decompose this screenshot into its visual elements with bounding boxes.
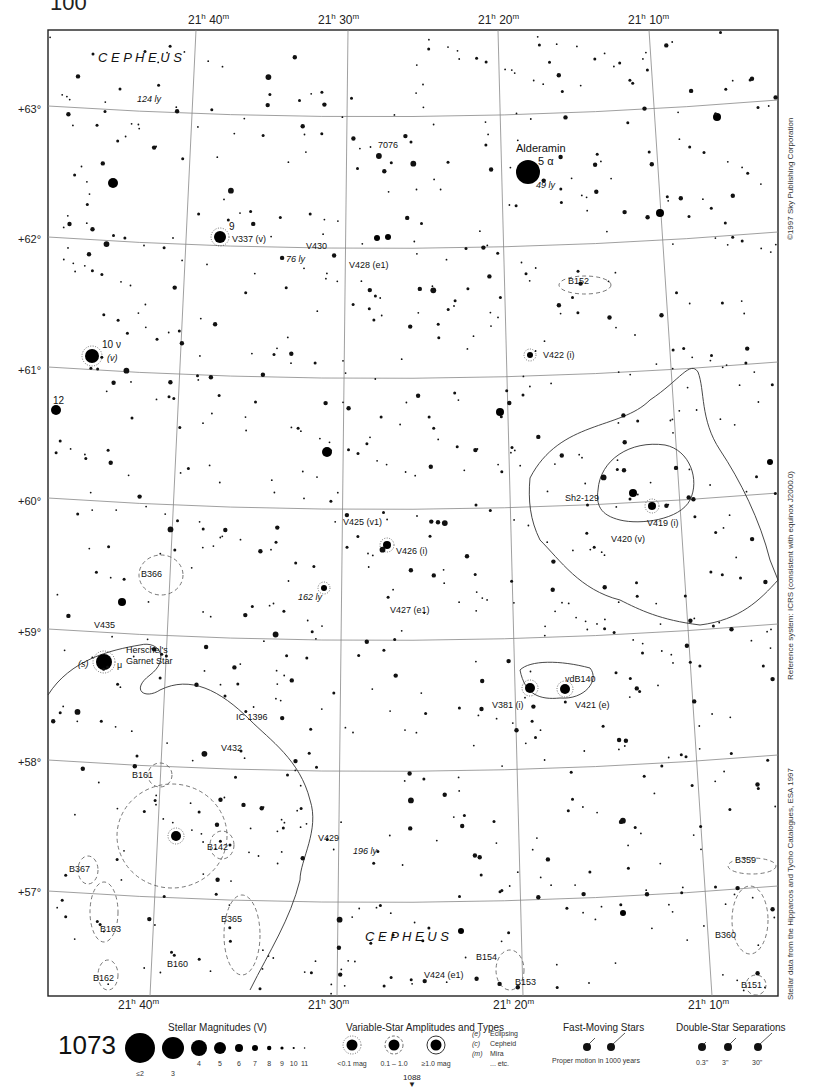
chart-label: V419 (i)	[647, 518, 679, 528]
star	[108, 178, 118, 188]
ra-label: 21h 30m	[318, 12, 359, 27]
variable-type-item: (e)Eclipsing	[472, 1030, 518, 1037]
chart-label: B151	[741, 980, 762, 990]
star	[374, 235, 380, 241]
magnitude-sample	[252, 1045, 258, 1051]
star	[560, 684, 570, 694]
right-ascension-grid	[150, 30, 712, 996]
chart-label: Sh2-129	[565, 493, 599, 503]
chart-label: B154	[476, 952, 497, 962]
star	[458, 928, 464, 934]
chart-label: 10 ν	[102, 339, 121, 350]
chart-label: B360	[715, 930, 736, 940]
chart-label: B161	[132, 770, 153, 780]
magnitude-sample	[125, 1033, 155, 1063]
double-star-legend	[690, 1032, 800, 1060]
svg-text:7: 7	[253, 1060, 257, 1067]
variable-type-item: ... etc.	[472, 1060, 509, 1067]
chart-label: V424 (e1)	[424, 970, 464, 980]
svg-text:8: 8	[267, 1060, 271, 1067]
chart-label: B152	[568, 276, 589, 286]
star	[525, 683, 535, 693]
ra-label: 21h 10m	[628, 12, 669, 27]
star	[656, 209, 664, 217]
ra-label: 21h 20m	[493, 997, 534, 1012]
star	[85, 349, 99, 363]
chart-label: V381 (i)	[492, 700, 524, 710]
declination-label: +57°	[18, 886, 41, 898]
svg-text:0.1 – 1.0: 0.1 – 1.0	[380, 1060, 407, 1067]
ra-label: 21h 40m	[188, 12, 229, 27]
magnitude-sample	[235, 1044, 243, 1052]
chart-label: V420 (v)	[611, 534, 645, 544]
star	[496, 408, 504, 416]
chart-label: 124 ly	[137, 94, 162, 104]
star	[214, 231, 226, 243]
chart-label: 9	[229, 221, 235, 232]
chart-label: B359	[735, 855, 756, 865]
chart-label: V421 (e)	[575, 700, 610, 710]
chart-label: B366	[141, 569, 162, 579]
chart-label: B142	[207, 842, 228, 852]
copyright-text: ©1997 Sky Publishing Corporation	[786, 118, 795, 240]
chart-label: B162	[93, 973, 114, 983]
star	[96, 654, 112, 670]
declination-label: +59°	[18, 626, 41, 638]
chart-label: 76 ly	[286, 254, 306, 264]
page-number: 1073	[58, 1030, 116, 1061]
svg-text:≥1.0 mag: ≥1.0 mag	[421, 1060, 450, 1068]
declination-label: +58°	[18, 756, 41, 768]
chart-label: B153	[515, 977, 536, 987]
star	[620, 910, 626, 916]
variable-star-legend: <0.1 mag0.1 – 1.0≥1.0 mag	[330, 1030, 475, 1070]
nebula-outlines	[48, 368, 778, 990]
magnitude-sample	[191, 1040, 207, 1056]
chart-label: (v)	[107, 353, 118, 363]
next-page-reference[interactable]: 1088 ▼	[403, 1073, 421, 1088]
magnitude-sample	[293, 1047, 295, 1049]
svg-text:5: 5	[218, 1060, 222, 1067]
declination-label: +63°	[18, 103, 41, 115]
magnitude-sample	[162, 1037, 184, 1059]
variable-type-item: (m)Mira	[472, 1050, 504, 1057]
magnitude-sample	[267, 1046, 271, 1050]
faint-stars	[49, 31, 778, 995]
magnitude-sample	[280, 1046, 283, 1049]
star	[527, 352, 533, 358]
declination-grid	[48, 100, 778, 902]
chart-label: V435	[94, 620, 115, 630]
chart-frame	[48, 30, 778, 996]
chart-label: 196 ly	[353, 846, 378, 856]
chart-label: V429	[318, 833, 339, 843]
chart-label: 12	[53, 395, 65, 406]
chart-label: 49 ly	[536, 180, 556, 190]
ra-label: 21h 30m	[308, 997, 349, 1012]
ra-label: 21h 40m	[118, 997, 159, 1012]
stellar-data-source-text: Stellar data from the Hipparcos and Tych…	[786, 768, 795, 1000]
reference-system-text: Reference system: ICRS (consistent with …	[786, 471, 795, 680]
svg-text:3: 3	[171, 1070, 175, 1077]
chart-label: Herschel's	[126, 645, 168, 655]
star	[385, 234, 391, 240]
chart-label: Alderamin	[516, 142, 566, 154]
svg-text:≤2: ≤2	[136, 1070, 144, 1077]
chart-label: V422 (i)	[543, 350, 575, 360]
chart-label: Garnet Star	[126, 656, 173, 666]
svg-text:6: 6	[237, 1060, 241, 1067]
star	[321, 585, 327, 591]
fast-moving-caption: Proper motion in 1000 years	[552, 1057, 640, 1064]
star	[51, 405, 61, 415]
chart-label: C E P H E U S	[98, 50, 182, 65]
chart-label: 162 ly	[298, 592, 323, 602]
chart-label: V426 (i)	[396, 546, 428, 556]
declination-label: +62°	[18, 233, 41, 245]
chart-label: V428 (e1)	[349, 260, 389, 270]
chart-label: μ	[117, 660, 122, 670]
chart-label: 5 α	[538, 155, 554, 167]
chart-label: B160	[167, 959, 188, 969]
chart-label: B163	[100, 924, 121, 934]
chart-label: V427 (e1)	[390, 605, 430, 615]
ra-label: 21h 20m	[478, 12, 519, 27]
chart-label: 7076	[378, 140, 398, 150]
magnitude-sample	[214, 1042, 226, 1054]
